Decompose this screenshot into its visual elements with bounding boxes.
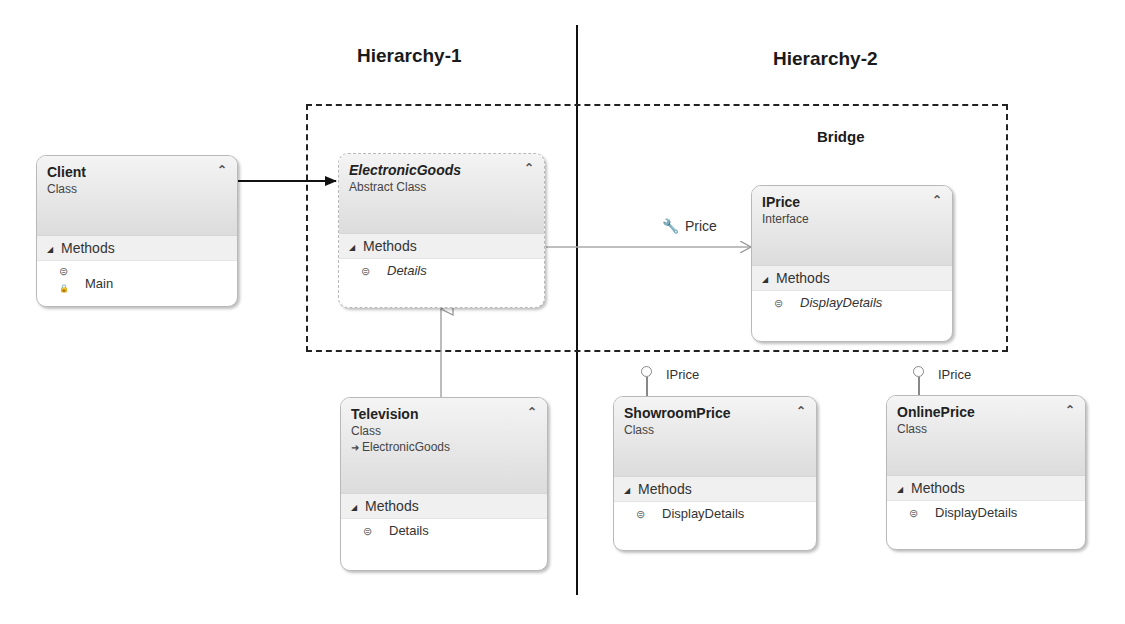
expand-triangle-icon: ◢ [624,486,630,495]
wrench-icon: 🔧 [662,218,679,234]
class-kind: Class [351,424,537,438]
member-displaydetails[interactable]: ⊜DisplayDetails [614,502,816,525]
class-kind: Interface [762,212,942,226]
method-icon: ⊜ [636,508,652,521]
class-name: ElectronicGoods [349,162,534,178]
collapse-icon[interactable]: ⌃ [932,193,942,207]
member-displaydetails[interactable]: ⊜DisplayDetails [887,501,1085,524]
iprice-lollipop-icon [913,366,924,377]
lollipop-stem [646,377,648,396]
methods-section[interactable]: ◢Methods [752,266,952,291]
implements-label: IPrice [938,367,971,382]
class-name: ShowroomPrice [624,405,806,421]
member-details[interactable]: ⊜Details [341,519,547,542]
methods-section[interactable]: ◢Methods [37,236,237,261]
expand-triangle-icon: ◢ [351,503,357,512]
collapse-icon[interactable]: ⌃ [217,163,227,177]
class-kind: Class [47,182,227,196]
class-television[interactable]: Television Class ➜ElectronicGoods ⌃ ◢Met… [340,397,548,571]
class-kind: Class [624,423,806,437]
interface-iprice[interactable]: IPrice Interface ⌃ ◢Methods ⊜DisplayDeta… [751,185,953,342]
methods-section[interactable]: ◢Methods [339,234,544,259]
implements-label: IPrice [666,367,699,382]
collapse-icon[interactable]: ⌃ [524,161,534,175]
collapse-icon[interactable]: ⌃ [527,405,537,419]
methods-section[interactable]: ◢Methods [887,476,1085,501]
abstract-method-icon: ⊜ [774,297,790,310]
expand-triangle-icon: ◢ [762,275,768,284]
collapse-icon[interactable]: ⌃ [796,404,806,418]
methods-section[interactable]: ◢Methods [341,494,547,519]
abstract-method-icon: ⊜ [361,265,377,278]
lollipop-stem [918,377,920,396]
class-client[interactable]: Client Class ⌃ ◢Methods ⊜🔒Main [36,155,238,307]
class-name: Television [351,406,537,422]
member-main[interactable]: ⊜🔒Main [37,261,237,297]
expand-triangle-icon: ◢ [47,245,53,254]
methods-section[interactable]: ◢Methods [614,477,816,502]
class-showroomprice[interactable]: ShowroomPrice Class ⌃ ◢Methods ⊜DisplayD… [613,396,817,551]
class-kind: Abstract Class [349,180,534,194]
class-name: OnlinePrice [897,404,1075,420]
iprice-lollipop-icon [641,366,652,377]
class-name: Client [47,164,227,180]
class-electronicgoods[interactable]: ElectronicGoods Abstract Class ⌃ ◢Method… [338,153,545,308]
inherits-arrow-icon: ➜ [351,442,359,453]
private-method-icon: ⊜🔒 [59,265,75,293]
class-kind: Class [897,422,1075,436]
expand-triangle-icon: ◢ [349,243,355,252]
class-name: IPrice [762,194,942,210]
base-class: ➜ElectronicGoods [351,440,537,454]
class-onlineprice[interactable]: OnlinePrice Class ⌃ ◢Methods ⊜DisplayDet… [886,395,1086,550]
member-details[interactable]: ⊜Details [339,259,544,282]
expand-triangle-icon: ◢ [897,485,903,494]
method-icon: ⊜ [909,507,925,520]
method-icon: ⊜ [363,525,379,538]
collapse-icon[interactable]: ⌃ [1065,403,1075,417]
price-association-label: 🔧Price [662,218,717,234]
member-displaydetails[interactable]: ⊜DisplayDetails [752,291,952,314]
